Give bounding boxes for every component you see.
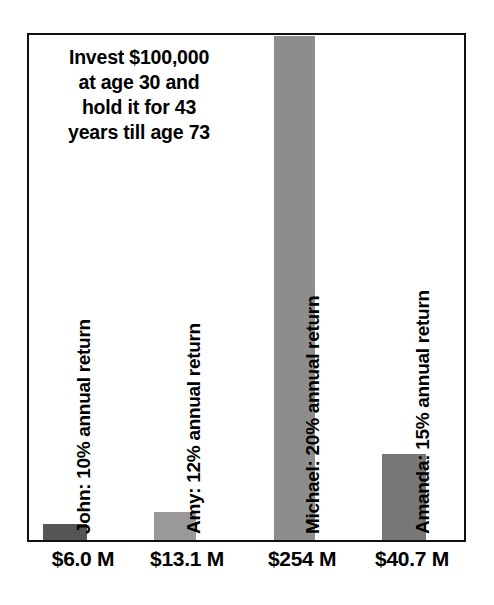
- x-axis-label-john: $6.0 M: [23, 547, 143, 571]
- series-label-amanda: Amanda: 15% annual return: [412, 290, 434, 534]
- x-axis-labels: $6.0 M $13.1 M $254 M $40.7 M: [27, 547, 466, 581]
- chart-page: Invest $100,000 at age 30 and hold it fo…: [0, 0, 494, 605]
- x-axis-label-amanda: $40.7 M: [352, 547, 472, 571]
- caption-line-4: years till age 73: [39, 120, 239, 145]
- series-label-michael: Michael: 20% annual return: [302, 296, 324, 534]
- chart-plot-area: Invest $100,000 at age 30 and hold it fo…: [27, 33, 466, 542]
- caption-line-2: at age 30 and: [39, 70, 239, 95]
- caption-line-1: Invest $100,000: [39, 45, 239, 70]
- caption-line-3: hold it for 43: [39, 95, 239, 120]
- x-axis-label-amy: $13.1 M: [127, 547, 247, 571]
- series-label-john: John: 10% annual return: [73, 319, 95, 534]
- chart-caption: Invest $100,000 at age 30 and hold it fo…: [39, 45, 239, 145]
- x-axis-label-michael: $254 M: [242, 547, 362, 571]
- series-label-amy: Amy: 12% annual return: [183, 323, 205, 534]
